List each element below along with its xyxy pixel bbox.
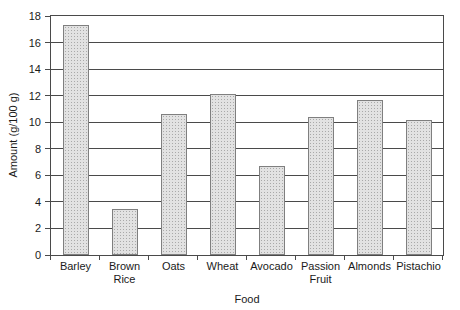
gridline xyxy=(51,148,443,149)
bar-wheat xyxy=(210,94,236,255)
y-tick-mark xyxy=(45,16,50,17)
y-tick-mark xyxy=(45,42,50,43)
x-category-label: Pistachio xyxy=(394,260,443,273)
x-category-label: Wheat xyxy=(198,260,247,273)
y-tick-label: 4 xyxy=(13,196,41,208)
y-tick-label: 16 xyxy=(13,37,41,49)
bar-chart-figure: Amount (g/100 g) 024681012141618 BarleyB… xyxy=(0,0,460,310)
gridline xyxy=(51,95,443,96)
x-category-label: Passion Fruit xyxy=(296,260,345,286)
gridline xyxy=(51,228,443,229)
y-tick-label: 10 xyxy=(13,116,41,128)
y-tick-mark xyxy=(45,228,50,229)
y-tick-label: 12 xyxy=(13,90,41,102)
plot-area xyxy=(50,15,444,256)
bar-passion-fruit xyxy=(308,117,334,255)
x-category-label: Barley xyxy=(51,260,100,273)
gridline xyxy=(51,175,443,176)
bar-brown-rice xyxy=(112,209,138,255)
y-tick-mark xyxy=(45,175,50,176)
y-tick-mark xyxy=(45,69,50,70)
x-axis-title: Food xyxy=(234,293,259,305)
bar-avocado xyxy=(259,166,285,255)
y-tick-mark xyxy=(45,122,50,123)
y-tick-label: 8 xyxy=(13,143,41,155)
y-axis-title: Amount (g/100 g) xyxy=(7,93,19,178)
bar-oats xyxy=(161,114,187,255)
y-tick-label: 14 xyxy=(13,63,41,75)
gridline xyxy=(51,122,443,123)
x-category-label: Almonds xyxy=(345,260,394,273)
gridline xyxy=(51,69,443,70)
x-category-label: Oats xyxy=(149,260,198,273)
gridline xyxy=(51,201,443,202)
y-tick-label: 6 xyxy=(13,169,41,181)
y-tick-label: 2 xyxy=(13,222,41,234)
x-category-label: Avocado xyxy=(247,260,296,273)
x-category-label: Brown Rice xyxy=(100,260,149,286)
y-tick-mark xyxy=(45,201,50,202)
gridline xyxy=(51,42,443,43)
bar-pistachio xyxy=(406,120,432,255)
y-tick-mark xyxy=(45,148,50,149)
y-tick-label: 0 xyxy=(13,249,41,261)
y-tick-label: 18 xyxy=(13,10,41,22)
y-tick-mark xyxy=(45,95,50,96)
bar-almonds xyxy=(357,100,383,255)
bar-barley xyxy=(63,25,89,255)
